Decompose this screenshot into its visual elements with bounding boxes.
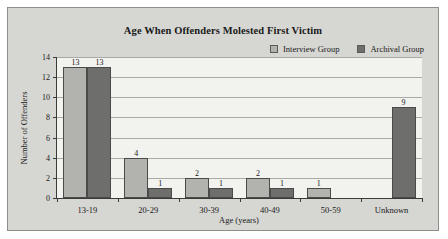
bar-value-label: 13 (95, 59, 103, 67)
bar-interview-group[interactable]: 2 (246, 178, 270, 198)
bar-group: 1 (300, 57, 361, 198)
legend-swatch-archival-group (357, 45, 365, 53)
y-axis-tick-label: 2 (46, 173, 50, 182)
bar-value-label: 1 (158, 180, 162, 188)
bar-value-label: 2 (256, 170, 260, 178)
bar-interview-group[interactable]: 4 (124, 158, 148, 198)
y-axis-title-text: Number of Offenders (18, 91, 28, 164)
bar-archival-group[interactable]: 9 (392, 107, 416, 198)
bar-group: 21 (179, 57, 240, 198)
x-axis-tick-label: 20-29 (138, 205, 158, 215)
x-axis-tick (57, 198, 58, 202)
chart-legend: Interview Group Archival Group (270, 44, 424, 54)
bar-value-label: 1 (219, 180, 223, 188)
x-axis-tick (300, 198, 301, 202)
x-axis-tick (422, 198, 423, 202)
y-axis-title: Number of Offenders (17, 57, 29, 199)
bar-group: 21 (240, 57, 301, 198)
legend-label-archival-group: Archival Group (370, 44, 424, 54)
bar-value-label: 9 (402, 99, 406, 107)
x-axis-tick-label: 40-49 (260, 205, 280, 215)
y-axis-tick-label: 12 (42, 73, 50, 82)
x-axis-tick (179, 198, 180, 202)
bar-group: 1313 (57, 57, 118, 198)
legend-swatch-interview-group (270, 45, 278, 53)
x-axis-tick (118, 198, 119, 202)
bar-archival-group[interactable]: 1 (209, 188, 233, 198)
bar-group: 9 (361, 57, 422, 198)
x-axis-tick (240, 198, 241, 202)
legend-item-archival-group: Archival Group (357, 44, 424, 54)
x-axis-tick-label: Unknown (375, 205, 409, 215)
bar-value-label: 13 (71, 59, 79, 67)
chart-figure: Age When Offenders Molested First Victim… (7, 7, 439, 231)
x-axis-tick (361, 198, 362, 202)
y-axis-tick-label: 4 (46, 153, 50, 162)
y-axis-tick-label: 10 (42, 93, 50, 102)
bar-interview-group[interactable]: 2 (185, 178, 209, 198)
x-axis-title: Age (years) (56, 215, 422, 225)
bars-layer: 131313-194120-292130-392140-49150-599Unk… (57, 57, 422, 198)
y-axis-tick-label: 0 (46, 194, 50, 203)
chart-title: Age When Offenders Molested First Victim (8, 25, 438, 36)
bar-interview-group[interactable]: 13 (63, 67, 87, 198)
legend-item-interview-group: Interview Group (270, 44, 339, 54)
bar-value-label: 1 (280, 180, 284, 188)
y-axis-tick-label: 14 (42, 53, 50, 62)
bar-interview-group[interactable]: 1 (307, 188, 331, 198)
x-axis-tick-label: 30-39 (199, 205, 219, 215)
y-axis-tick-label: 8 (46, 113, 50, 122)
bar-group: 41 (118, 57, 179, 198)
bar-value-label: 4 (134, 150, 138, 158)
bar-value-label: 1 (317, 180, 321, 188)
x-axis-tick-label: 13-19 (77, 205, 97, 215)
bar-archival-group[interactable]: 1 (148, 188, 172, 198)
plot-area: 02468101214 131313-194120-292130-392140-… (56, 57, 422, 199)
bar-archival-group[interactable]: 1 (270, 188, 294, 198)
legend-label-interview-group: Interview Group (283, 44, 339, 54)
bar-archival-group[interactable]: 13 (87, 67, 111, 198)
y-axis-tick-label: 6 (46, 133, 50, 142)
bar-value-label: 2 (195, 170, 199, 178)
x-axis-tick-label: 50-59 (321, 205, 341, 215)
